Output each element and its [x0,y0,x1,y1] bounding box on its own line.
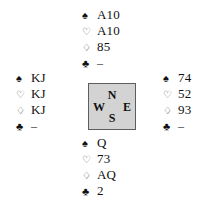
hand-south-clubs: 2 [94,183,104,199]
compass-label-south: S [89,112,135,124]
bridge-hand-diagram: ♠ A10 ♡ A10 ♢ 85 ♣ – ♠ KJ ♡ KJ ♢ KJ [0,0,200,206]
hand-north-hearts-row: ♡ A10 [82,23,120,39]
hand-north-spades-row: ♠ A10 [82,7,120,23]
hand-north-clubs: – [94,55,103,71]
hand-north-diamonds: 85 [94,39,110,55]
diamond-icon: ♢ [16,103,28,119]
hand-east: ♠ 74 ♡ 52 ♢ 93 ♣ – [163,70,191,134]
hand-east-hearts: 52 [175,86,191,102]
diamond-icon: ♢ [163,103,175,119]
hand-east-diamonds: 93 [175,102,191,118]
hand-north-clubs-row: ♣ – [82,55,120,71]
hand-north-hearts: A10 [94,23,120,39]
hand-west-hearts-row: ♡ KJ [16,86,46,102]
hand-west-hearts: KJ [28,86,46,102]
hand-south-spades-row: ♠ Q [82,135,116,151]
hand-north-diamonds-row: ♢ 85 [82,39,120,55]
hand-south-hearts: 73 [94,151,110,167]
hand-east-diamonds-row: ♢ 93 [163,102,191,118]
hand-west-spades: KJ [28,70,46,86]
hand-south: ♠ Q ♡ 73 ♢ AQ ♣ 2 [82,135,116,199]
hand-east-hearts-row: ♡ 52 [163,86,191,102]
spade-icon: ♠ [82,7,94,23]
club-icon: ♣ [163,118,175,134]
hand-south-diamonds-row: ♢ AQ [82,167,116,183]
hand-west: ♠ KJ ♡ KJ ♢ KJ ♣ – [16,70,46,134]
hand-south-hearts-row: ♡ 73 [82,151,116,167]
heart-icon: ♡ [16,87,28,103]
hand-west-spades-row: ♠ KJ [16,70,46,86]
diamond-icon: ♢ [82,40,94,56]
spade-icon: ♠ [163,70,175,86]
hand-south-clubs-row: ♣ 2 [82,183,116,199]
club-icon: ♣ [82,183,94,199]
hand-west-diamonds: KJ [28,102,46,118]
hand-west-diamonds-row: ♢ KJ [16,102,46,118]
hand-south-diamonds: AQ [94,167,116,183]
club-icon: ♣ [16,118,28,134]
spade-icon: ♠ [16,70,28,86]
heart-icon: ♡ [82,24,94,40]
compass-box: N W E S [88,83,136,130]
hand-west-clubs-row: ♣ – [16,118,46,134]
diamond-icon: ♢ [82,168,94,184]
hand-west-clubs: – [28,118,37,134]
hand-east-clubs: – [175,118,184,134]
spade-icon: ♠ [82,135,94,151]
hand-east-spades: 74 [175,70,191,86]
club-icon: ♣ [82,55,94,71]
heart-icon: ♡ [163,87,175,103]
hand-east-spades-row: ♠ 74 [163,70,191,86]
hand-east-clubs-row: ♣ – [163,118,191,134]
compass-label-west: W [93,101,105,113]
hand-north-spades: A10 [94,7,120,23]
compass-label-east: E [123,101,131,113]
hand-south-spades: Q [94,135,107,151]
heart-icon: ♡ [82,152,94,168]
hand-north: ♠ A10 ♡ A10 ♢ 85 ♣ – [82,7,120,71]
